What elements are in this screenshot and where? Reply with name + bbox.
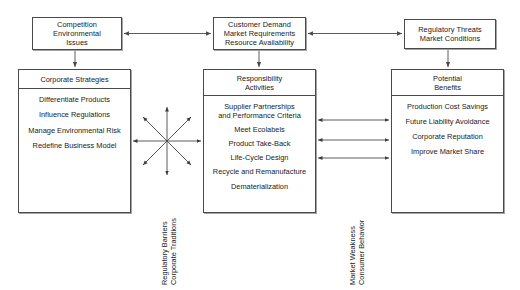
list-item: Dematerialization	[204, 182, 315, 191]
label-market-weakness: Market Weakness Consumer Behavior	[348, 220, 367, 285]
diagram-canvas: Competition Environmental Issues Custome…	[0, 0, 520, 290]
box-competition-text: Competition Environmental Issues	[53, 20, 101, 47]
list-item: Recycle and Remanufacture	[204, 167, 315, 176]
box-corporate-strategies: Corporate Strategies Differentiate Produ…	[18, 69, 131, 213]
box-competition-environmental-issues: Competition Environmental Issues	[32, 17, 122, 50]
box-potential-benefits-header: Potential Benefits	[392, 70, 503, 96]
box-potential-benefits: Potential Benefits Production Cost Savin…	[391, 69, 504, 213]
list-item: Redefine Business Model	[19, 141, 130, 150]
box-customer-text: Customer Demand Market Requirements Reso…	[224, 20, 296, 47]
box-responsibility-activities: Responsibility Activities Supplier Partn…	[203, 69, 316, 213]
list-item: Product Take-Back	[204, 139, 315, 148]
box-customer-demand: Customer Demand Market Requirements Reso…	[213, 17, 306, 50]
starburst-ray-diagonal-swne	[143, 117, 191, 165]
box-potential-benefits-items: Production Cost Savings Future Liability…	[392, 96, 503, 212]
box-responsibility-activities-items: Supplier Partnerships and Performance Cr…	[204, 96, 315, 212]
box-corporate-strategies-items: Differentiate Products Influence Regulat…	[19, 89, 130, 212]
list-item: Production Cost Savings	[392, 102, 503, 111]
list-item: Corporate Reputation	[392, 132, 503, 141]
box-corporate-strategies-header: Corporate Strategies	[19, 70, 130, 89]
list-item: Supplier Partnerships and Performance Cr…	[204, 102, 315, 120]
box-regulatory-threats: Regulatory Threats Market Conditions	[404, 19, 496, 49]
list-item: Life-Cycle Design	[204, 153, 315, 162]
starburst-ray-diagonal-nwse	[143, 117, 191, 165]
list-item: Future Liability Avoidance	[392, 117, 503, 126]
label-regulatory-barriers: Regulatory Barriers Corporate Traditions	[160, 218, 179, 285]
list-item: Improve Market Share	[392, 147, 503, 156]
list-item: Manage Environmental Risk	[19, 126, 130, 135]
list-item: Meet Ecolabels	[204, 125, 315, 134]
list-item: Influence Regulations	[19, 110, 130, 119]
list-item: Differentiate Products	[19, 95, 130, 104]
box-regulatory-text: Regulatory Threats Market Conditions	[418, 25, 482, 43]
box-responsibility-activities-header: Responsibility Activities	[204, 70, 315, 96]
